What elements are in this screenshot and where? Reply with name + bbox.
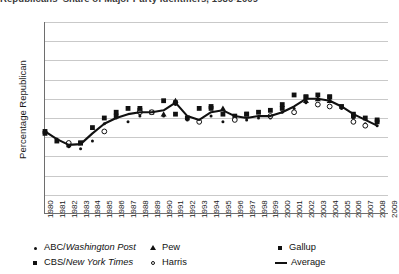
x-tick-label: 1997 (249, 200, 257, 218)
x-tick-label: 2001 (296, 200, 304, 218)
legend-label: ABC/Washington Post (44, 243, 136, 252)
x-tick-label: 1980 (47, 200, 55, 218)
x-tick-label: 1994 (213, 200, 221, 218)
legend-label: Gallup (289, 243, 316, 252)
filled-square-marker-icon (275, 243, 285, 252)
y-axis-label: Percentage Republican (17, 35, 28, 185)
x-tick-label: 1988 (142, 200, 150, 218)
small-dot-marker-icon (30, 243, 40, 252)
x-tick-label: 1991 (177, 200, 185, 218)
x-tick-label: 1996 (237, 200, 245, 218)
x-tick-label: 1989 (154, 200, 162, 218)
x-tick-label: 1986 (118, 200, 126, 218)
x-tick-label: 2002 (308, 200, 316, 218)
plot-area (44, 22, 388, 214)
triangle-marker-icon (148, 243, 158, 252)
legend-label: Harris (162, 258, 187, 267)
x-tick-label: 1981 (59, 200, 67, 218)
chart-legend: ABC/Washington PostCBS/New York TimesPew… (30, 243, 385, 273)
square-marker-icon (30, 258, 40, 267)
x-tick-label: 1999 (272, 200, 280, 218)
x-tick-label: 2007 (367, 200, 375, 218)
series-harris (66, 102, 367, 145)
x-tick-label: 1984 (94, 200, 102, 218)
x-tick-label: 1992 (189, 200, 197, 218)
legend-label: CBS/New York Times (44, 258, 133, 267)
legend-label: Pew (162, 243, 180, 252)
x-tick-label: 2009 (391, 200, 399, 218)
x-tick-label: 2006 (355, 200, 363, 218)
legend-item-cbs: CBS/New York Times (30, 258, 133, 267)
x-tick-label: 1995 (225, 200, 233, 218)
legend-item-harris: Harris (148, 258, 187, 267)
x-tick-label: 2005 (344, 200, 352, 218)
legend-item-abc: ABC/Washington Post (30, 243, 136, 252)
x-tick-label: 1990 (166, 200, 174, 218)
x-tick-label: 2004 (332, 200, 340, 218)
legend-item-gallup: Gallup (275, 243, 316, 252)
x-tick-label: 1993 (201, 200, 209, 218)
legend-label: Average (291, 258, 325, 267)
x-tick-label: 1987 (130, 200, 138, 218)
x-tick-label: 2003 (320, 200, 328, 218)
x-tick-label: 1983 (83, 200, 91, 218)
x-tick-label: 1985 (106, 200, 114, 218)
x-tick-label: 1982 (71, 200, 79, 218)
x-tick-label: 1998 (261, 200, 269, 218)
legend-item-pew: Pew (148, 243, 180, 252)
legend-item-average: Average (275, 258, 325, 267)
x-tick-label: 2008 (379, 200, 387, 218)
data-series-layer (45, 22, 389, 214)
line-marker-icon (275, 262, 287, 264)
open-circle-marker-icon (148, 258, 158, 267)
x-tick-label: 2000 (284, 200, 292, 218)
